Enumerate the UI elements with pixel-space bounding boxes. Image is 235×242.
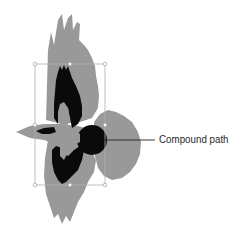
- handle-middle-left[interactable]: [33, 123, 37, 127]
- handle-bottom-center[interactable]: [68, 183, 72, 187]
- handle-middle-right[interactable]: [103, 123, 107, 127]
- callout-label: Compound path: [159, 133, 229, 145]
- handle-top-left[interactable]: [33, 62, 37, 66]
- handle-top-center[interactable]: [68, 62, 72, 66]
- handle-bottom-right[interactable]: [103, 183, 107, 187]
- bird-illustration: [0, 0, 235, 242]
- illustration-canvas: Compound path: [0, 0, 235, 242]
- handle-top-right[interactable]: [103, 62, 107, 66]
- handle-bottom-left[interactable]: [33, 183, 37, 187]
